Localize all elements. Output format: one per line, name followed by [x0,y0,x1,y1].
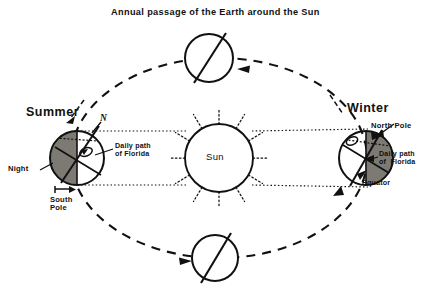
summer-night-label: Night [8,165,28,173]
figure-title: Annual passage of the Earth around the S… [111,8,320,18]
earth-top [185,33,233,83]
winter-daily-path-label: Daily path of Florida [379,151,415,166]
earth-summer [48,122,104,193]
earth-summer-pole-arrowhead [69,186,76,193]
season-label-winter: Winter [347,102,389,115]
summer-axis-north-label: N [100,113,107,123]
earth-orbit-diagram [0,0,438,291]
winter-equator-label: Equator [362,180,390,188]
winter-north-pole-label: North Pole [371,122,411,130]
sun-label: Sun [206,152,224,162]
diagram-canvas: Annual passage of the Earth around the S… [0,0,438,291]
earth-bottom [192,233,238,283]
season-label-summer: Summer [26,106,79,119]
summer-daily-path-label: Daily path of Florida [115,143,151,158]
winter-label-leader [330,95,343,114]
summer-south-pole-label: South Pole [50,196,73,212]
earth-winter-florida-path [345,135,359,147]
